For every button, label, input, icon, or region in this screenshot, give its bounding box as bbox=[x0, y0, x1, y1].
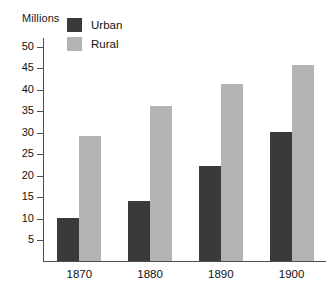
y-tick-mark bbox=[37, 133, 44, 134]
y-tick-mark bbox=[37, 176, 44, 177]
legend-swatch-urban bbox=[67, 18, 82, 32]
bar-rural-1880[interactable] bbox=[150, 106, 172, 261]
legend-label-urban: Urban bbox=[91, 18, 122, 32]
bar-urban-1900[interactable] bbox=[270, 132, 292, 261]
y-tick-mark bbox=[37, 68, 44, 69]
y-tick-label: 45 bbox=[22, 61, 34, 74]
legend-item-urban[interactable]: Urban bbox=[67, 18, 122, 32]
y-tick-mark bbox=[37, 47, 44, 48]
bar-urban-1870[interactable] bbox=[57, 218, 79, 261]
plot-area: 5101520253035404550 bbox=[43, 38, 326, 262]
y-axis-title: Millions bbox=[22, 12, 59, 24]
y-tick-label: 5 bbox=[28, 233, 34, 246]
bar-urban-1880[interactable] bbox=[128, 201, 150, 261]
y-tick-label: 15 bbox=[22, 190, 34, 203]
bar-chart: Millions Urban Rural 5101520253035404550… bbox=[0, 0, 333, 292]
bar-rural-1900[interactable] bbox=[292, 65, 314, 261]
y-tick-mark bbox=[37, 111, 44, 112]
y-tick-label: 25 bbox=[22, 147, 34, 160]
y-tick-mark bbox=[37, 197, 44, 198]
bar-rural-1890[interactable] bbox=[221, 84, 243, 261]
y-tick-label: 35 bbox=[22, 104, 34, 117]
x-axis-label-1870: 1870 bbox=[49, 268, 109, 280]
y-tick-label: 40 bbox=[22, 83, 34, 96]
bars-layer bbox=[44, 38, 326, 261]
y-tick-label: 10 bbox=[22, 212, 34, 225]
y-tick-mark bbox=[37, 90, 44, 91]
x-axis-label-1880: 1880 bbox=[120, 268, 180, 280]
y-tick-label: 30 bbox=[22, 126, 34, 139]
y-tick-label: 50 bbox=[22, 40, 34, 53]
y-tick-label: 20 bbox=[22, 169, 34, 182]
x-axis-label-1890: 1890 bbox=[191, 268, 251, 280]
bar-rural-1870[interactable] bbox=[79, 136, 101, 261]
y-tick-mark bbox=[37, 219, 44, 220]
y-tick-mark bbox=[37, 154, 44, 155]
y-tick-mark bbox=[37, 240, 44, 241]
x-axis-line bbox=[43, 261, 326, 262]
x-axis-label-1900: 1900 bbox=[262, 268, 322, 280]
bar-urban-1890[interactable] bbox=[199, 166, 221, 261]
